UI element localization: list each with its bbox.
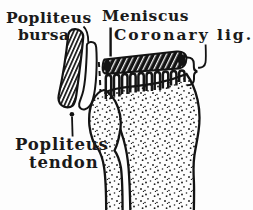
popliteus-bursa-label: Popliteus bursa [6, 9, 92, 44]
popliteus-tendon-label: Popliteus tendon [15, 136, 109, 173]
popliteus-tendon-label-line2: tendon [15, 154, 109, 172]
popliteus-tendon-label-line1: Popliteus [15, 135, 109, 154]
hidden-edge-dashed-line [99, 62, 101, 91]
knee-anatomy-figure: Popliteus bursa Meniscus Coronary lig. P… [0, 0, 253, 210]
popliteus-bursa-label-line1: Popliteus [6, 8, 92, 27]
coronary-ligament-label: Coronary lig. [114, 26, 253, 43]
coronary-leader-line [198, 45, 206, 68]
meniscus-label: Meniscus [102, 7, 189, 24]
popliteus-bursa-label-line2: bursa [6, 26, 92, 43]
tendon-leader-line [70, 112, 75, 137]
